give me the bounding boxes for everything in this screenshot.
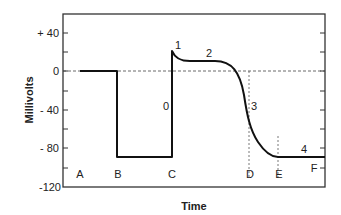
y-axis-label: Millivolts bbox=[23, 76, 35, 123]
right-ticks bbox=[320, 33, 325, 168]
marker-c: C bbox=[168, 168, 176, 180]
ytick-0: 0 bbox=[53, 65, 59, 77]
left-ticks bbox=[63, 33, 68, 168]
membrane-potential-trace bbox=[80, 51, 325, 157]
ytick-minus-80: - 80 bbox=[40, 142, 59, 154]
ytick-minus-40: - 40 bbox=[40, 104, 59, 116]
phase-4-label: 4 bbox=[301, 143, 307, 155]
marker-f: F bbox=[311, 162, 318, 174]
ytick-minus-120: -120 bbox=[39, 181, 61, 193]
marker-e: E bbox=[275, 168, 282, 180]
marker-b: B bbox=[114, 168, 121, 180]
action-potential-chart: + 40 0 - 40 - 80 -120 Millivolts Time A … bbox=[0, 0, 341, 215]
phase-0-label: 0 bbox=[163, 100, 169, 112]
phase-2-label: 2 bbox=[206, 47, 212, 59]
phase-3-label: 3 bbox=[251, 100, 257, 112]
marker-a: A bbox=[76, 168, 84, 180]
marker-d: D bbox=[246, 168, 254, 180]
x-axis-label: Time bbox=[181, 200, 206, 212]
plot-frame bbox=[63, 14, 325, 187]
phase-1-label: 1 bbox=[175, 39, 181, 51]
ytick-40: + 40 bbox=[37, 27, 59, 39]
